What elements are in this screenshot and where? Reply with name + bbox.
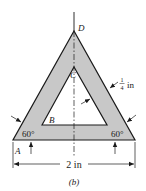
point-label-a: A	[14, 146, 21, 156]
load-arrow-right-edge	[127, 115, 136, 122]
point-label-c: C	[70, 70, 77, 80]
figure-caption: (b)	[69, 177, 80, 187]
point-label-d: D	[77, 23, 85, 33]
thickness-arrow-inner	[81, 99, 90, 104]
load-arrow-left-edge	[11, 116, 21, 122]
triangular-frame-diagram: 2 in 1 4 in D C B A 60° 60° (b)	[0, 0, 146, 191]
angle-label-right: 60°	[111, 129, 124, 139]
point-label-b: B	[49, 115, 55, 125]
angle-label-left: 60°	[22, 129, 35, 139]
thickness-unit: in	[127, 80, 135, 90]
thickness-arrow-outer	[110, 82, 118, 88]
base-width-label: 2 in	[66, 159, 81, 170]
thickness-den: 4	[121, 85, 124, 91]
thickness-num: 1	[121, 77, 124, 83]
